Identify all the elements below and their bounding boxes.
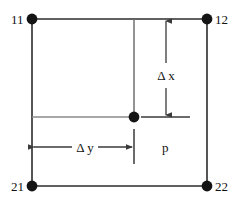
interpolation-stencil-diagram: Δ x Δ y 11 12 21 22 — [0, 0, 246, 208]
corner-node-22-group: 22 — [202, 179, 228, 194]
delta-y-label: Δ y — [76, 140, 94, 155]
corner-node-12 — [202, 14, 213, 25]
delta-y-dimension: Δ y — [34, 129, 134, 164]
corner-node-21 — [27, 181, 38, 192]
corner-node-11 — [27, 14, 38, 25]
corner-node-11-group: 11 — [11, 12, 37, 27]
delta-x-label: Δ x — [157, 68, 175, 83]
construction-lines — [32, 19, 134, 117]
corner-node-12-label: 12 — [215, 12, 228, 27]
corner-node-22-label: 22 — [215, 179, 228, 194]
corner-node-21-group: 21 — [11, 179, 37, 194]
interior-point-p — [129, 112, 140, 123]
interior-point-p-label: p — [162, 140, 169, 155]
cell-outline — [32, 19, 207, 186]
diagram-canvas: Δ x Δ y 11 12 21 22 — [0, 0, 246, 208]
corner-node-22 — [202, 181, 213, 192]
corner-node-21-label: 21 — [11, 179, 24, 194]
corner-node-11-label: 11 — [11, 12, 24, 27]
delta-x-dimension: Δ x — [141, 21, 190, 117]
corner-node-12-group: 12 — [202, 12, 228, 27]
